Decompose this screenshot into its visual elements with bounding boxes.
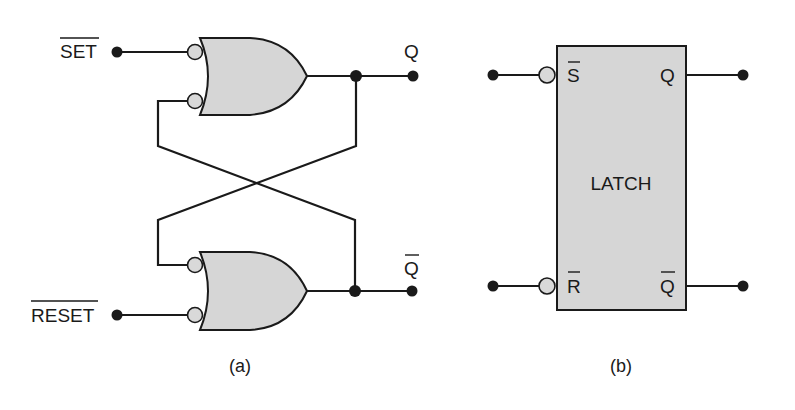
set-label: SET — [60, 41, 97, 62]
r-inversion-bubble — [539, 278, 555, 294]
s-inversion-bubble — [539, 67, 555, 83]
r-pin-label: R — [567, 276, 581, 297]
bottom-gate-inversion-bubble-1 — [188, 258, 203, 273]
qbar-output-terminal — [407, 286, 418, 297]
reset-label: RESET — [31, 305, 95, 326]
qbar-label: Q — [404, 258, 419, 279]
q-output-terminal — [408, 71, 419, 82]
s-pin-label: S — [567, 65, 580, 86]
caption-b: (b) — [610, 356, 632, 376]
qbar-junction — [349, 285, 361, 297]
top-gate-inversion-bubble-1 — [188, 45, 203, 60]
qbar-pin-label: Q — [660, 276, 675, 297]
top-gate-inversion-bubble-2 — [188, 94, 203, 109]
top-or-gate — [200, 38, 307, 115]
q-pin-output-terminal — [738, 70, 749, 81]
bottom-gate-inversion-bubble-2 — [188, 308, 203, 323]
latch-diagram: SET Q Q RESET (a) — [0, 0, 795, 410]
bottom-or-gate — [200, 252, 307, 330]
caption-a: (a) — [229, 356, 251, 376]
latch-label: LATCH — [591, 173, 652, 194]
figure-b: LATCH S Q R Q (b) — [488, 46, 749, 376]
figure-a: SET Q Q RESET (a) — [31, 38, 419, 376]
qbar-pin-output-terminal — [738, 281, 749, 292]
q-label: Q — [404, 41, 419, 62]
q-pin-label: Q — [660, 65, 675, 86]
